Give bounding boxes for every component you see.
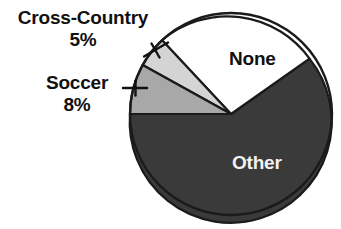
cross-country-label-text: Cross-Country <box>18 7 148 28</box>
cross-country-percent-text: 5% <box>7 30 159 51</box>
other-slice-label: Other <box>232 152 282 174</box>
soccer-percent-text: 8% <box>25 95 129 116</box>
soccer-callout-label: Soccer 8% <box>25 73 129 115</box>
cross-country-callout-label: Cross-Country 5% <box>7 8 159 50</box>
soccer-label-text: Soccer <box>46 72 108 93</box>
none-slice-label: None <box>229 48 276 70</box>
pie-chart-figure: Cross-Country 5% Soccer 8% None Other <box>0 0 341 229</box>
